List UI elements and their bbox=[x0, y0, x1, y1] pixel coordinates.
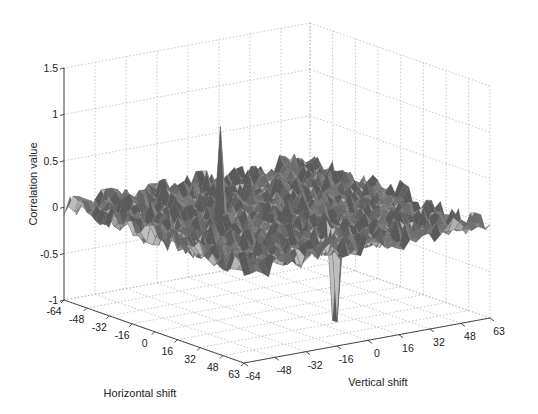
x-tick-label: 32 bbox=[184, 353, 196, 365]
surface-plot: -1-0.500.511.5-64-48-32-16016324863-64-4… bbox=[0, 0, 538, 414]
x-tick-label: -64 bbox=[46, 305, 61, 317]
z-tick-label: 0 bbox=[52, 201, 58, 213]
x-tick-label: 63 bbox=[228, 368, 240, 380]
y-tick-label: 0 bbox=[374, 347, 380, 359]
x-tick-label: -48 bbox=[69, 313, 84, 325]
y-tick-label: 16 bbox=[402, 342, 414, 354]
z-tick-label: 0.5 bbox=[43, 155, 58, 167]
y-tick-label: -32 bbox=[307, 359, 322, 371]
z-tick-label: 1.5 bbox=[43, 62, 58, 74]
y-tick-label: -16 bbox=[338, 353, 353, 365]
correlation-surface bbox=[64, 127, 490, 323]
y-axis-label: Vertical shift bbox=[348, 376, 407, 388]
z-tick-label: 1 bbox=[52, 108, 58, 120]
x-axis-label: Horizontal shift bbox=[104, 387, 177, 399]
x-tick-label: 48 bbox=[207, 361, 219, 373]
y-tick-label: 32 bbox=[433, 336, 445, 348]
y-tick-label: -48 bbox=[276, 364, 291, 376]
y-tick-label: 63 bbox=[493, 325, 505, 337]
x-tick-label: -32 bbox=[92, 321, 107, 333]
z-axis-label: Correlation value bbox=[27, 142, 39, 225]
x-tick-label: 0 bbox=[142, 337, 148, 349]
x-tick-label: 16 bbox=[162, 345, 174, 357]
z-tick-label: -0.5 bbox=[40, 248, 58, 260]
x-tick-label: -16 bbox=[114, 329, 129, 341]
y-tick-label: -64 bbox=[245, 370, 260, 382]
y-tick-label: 48 bbox=[464, 330, 476, 342]
